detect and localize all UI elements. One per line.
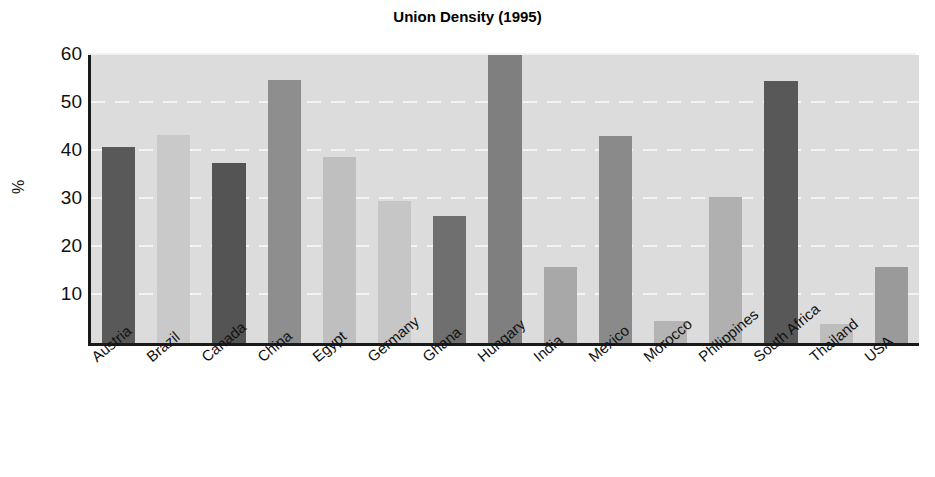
x-axis-labels: AustriaBrazilCanadaChinaEgyptGermanyGhan… — [88, 346, 916, 477]
bar-cell — [588, 55, 643, 343]
y-tick-label: 20 — [36, 236, 82, 255]
x-tick: Canada — [198, 346, 253, 466]
x-tick: Egypt — [309, 346, 364, 466]
x-tick: Mexico — [585, 346, 640, 466]
bar[interactable] — [599, 136, 632, 343]
y-axis-ticks: 102030405060 — [30, 0, 82, 477]
bar[interactable] — [102, 147, 135, 343]
chart-container: Union Density (1995) % 102030405060 Aust… — [0, 0, 935, 477]
chart-title: Union Density (1995) — [0, 8, 935, 25]
bar-cell — [809, 55, 864, 343]
x-tick: China — [254, 346, 309, 466]
plot-inner — [91, 55, 919, 343]
x-tick: Thailand — [806, 346, 861, 466]
bar-cell — [477, 55, 532, 343]
x-tick: India — [530, 346, 585, 466]
bar-cell — [864, 55, 919, 343]
x-tick: Morocco — [640, 346, 695, 466]
bar[interactable] — [323, 157, 356, 343]
bar[interactable] — [157, 135, 190, 343]
plot-area — [88, 55, 919, 346]
y-tick-label: 10 — [36, 284, 82, 303]
x-tick: Germany — [364, 346, 419, 466]
bar-cell — [698, 55, 753, 343]
bar[interactable] — [764, 81, 797, 343]
bar-cell — [367, 55, 422, 343]
x-tick: Philippines — [695, 346, 750, 466]
x-tick: USA — [861, 346, 916, 466]
bar[interactable] — [212, 163, 245, 343]
bar[interactable] — [268, 80, 301, 343]
bar-cell — [312, 55, 367, 343]
bar-series — [91, 55, 919, 343]
bar-cell — [643, 55, 698, 343]
bar[interactable] — [488, 55, 521, 343]
bar[interactable] — [875, 267, 908, 343]
y-tick-label: 30 — [36, 188, 82, 207]
x-tick: Austria — [88, 346, 143, 466]
bar-cell — [257, 55, 312, 343]
bar-cell — [422, 55, 477, 343]
bar[interactable] — [433, 216, 466, 343]
y-axis-label: % — [10, 180, 28, 194]
y-tick-label: 50 — [36, 92, 82, 111]
bar-cell — [201, 55, 256, 343]
bar-cell — [91, 55, 146, 343]
y-tick-label: 60 — [36, 44, 82, 63]
bar[interactable] — [544, 267, 577, 343]
bar-cell — [533, 55, 588, 343]
x-tick: Brazil — [143, 346, 198, 466]
x-tick: Ghana — [419, 346, 474, 466]
y-tick-label: 40 — [36, 140, 82, 159]
x-tick: South Africa — [750, 346, 805, 466]
bar-cell — [753, 55, 808, 343]
bar-cell — [146, 55, 201, 343]
x-tick: Hungary — [474, 346, 529, 466]
